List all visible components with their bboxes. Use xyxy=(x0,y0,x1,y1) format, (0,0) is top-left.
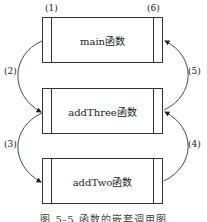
arrow-2 xyxy=(18,41,42,112)
arrow-3 xyxy=(18,113,42,182)
node-label: addTwo函数 xyxy=(43,174,162,189)
step-label-5: (5) xyxy=(188,66,201,76)
node-label: addThree函数 xyxy=(43,104,162,119)
arrow-5 xyxy=(164,41,188,110)
step-label-4: (4) xyxy=(188,139,201,149)
step-label-3: (3) xyxy=(4,139,17,149)
node-addthree: addThree函数 xyxy=(42,88,163,134)
figure-caption: 图 5-5 函数的嵌套调用图 xyxy=(0,211,207,222)
node-main: main函数 xyxy=(42,17,163,63)
step-label-2: (2) xyxy=(4,66,17,76)
node-label: main函数 xyxy=(43,33,162,48)
node-addtwo: addTwo函数 xyxy=(42,158,163,204)
step-label-6: (6) xyxy=(147,3,160,13)
arrow-4 xyxy=(164,112,188,181)
step-label-1: (1) xyxy=(45,3,58,13)
